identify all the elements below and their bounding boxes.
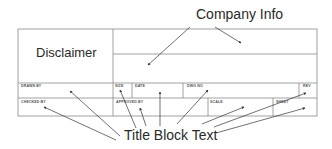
- dwg-no-label: DWG NO: [187, 84, 203, 88]
- checked-by-label: CHECKED BY: [21, 100, 46, 104]
- rev-label: REV: [303, 84, 311, 88]
- title-block-diagram: Company Info Title Block Text Disclaimer…: [0, 0, 332, 149]
- drawn-by-label: DRAWN BY: [21, 84, 41, 88]
- disclaimer-label: Disclaimer: [36, 45, 97, 60]
- title-block-text-callout: Title Block Text: [124, 127, 217, 143]
- scale-label: SCALE: [210, 100, 223, 104]
- date-label: DATE: [135, 84, 145, 88]
- company-info-callout: Company Info: [196, 6, 283, 22]
- approved-by-label: APPROVED BY: [116, 100, 143, 104]
- size-label: SIZE: [115, 84, 123, 88]
- arrows: [44, 27, 306, 140]
- sheet-label: SHEET: [276, 100, 288, 104]
